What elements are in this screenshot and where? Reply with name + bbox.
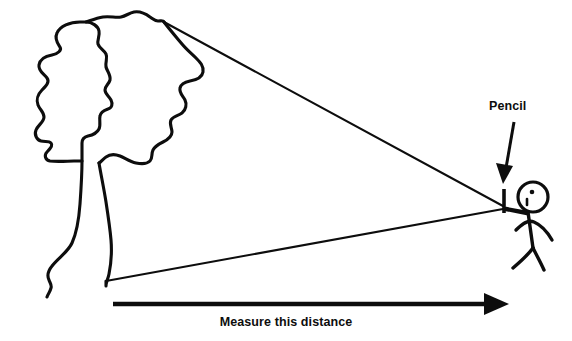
measure-arrow-icon [113,293,509,315]
tree-icon [35,12,203,297]
tree-crown-outline [35,22,112,161]
callout-arrow-head [496,163,513,184]
person-eye [530,190,535,195]
diagram-canvas [0,0,572,341]
pencil-label: Pencil [489,99,526,113]
sight-line-top [164,22,503,206]
measure-distance-label: Measure this distance [0,315,572,329]
tree-trunk-left [47,161,82,297]
figure-diagram: Pencil Measure this distance [0,0,572,341]
callout-arrow-icon [496,122,514,184]
person-right-leg [533,248,544,270]
person-torso [528,212,533,248]
tree-trunk-right [99,163,111,286]
callout-arrow-shaft [506,122,514,168]
tree-crown-right-edge [99,22,203,164]
person-head [518,182,548,212]
person-shoulders [516,221,552,240]
measure-arrow-head [484,293,509,315]
tree-crown-right-lobes [86,12,164,22]
person-left-leg [513,248,533,268]
stick-figure-icon [506,182,552,270]
sight-line-bottom [106,209,503,281]
